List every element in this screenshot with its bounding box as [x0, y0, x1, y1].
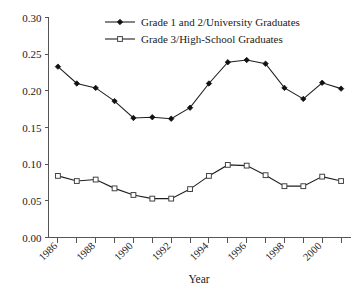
data-point-marker: [117, 19, 122, 24]
chart-canvas: 0.000.050.100.150.200.250.30 19861988199…: [0, 0, 364, 295]
data-point-marker: [169, 196, 174, 201]
data-point-marker: [112, 186, 117, 191]
legend-label: Grade 3/High-School Graduates: [141, 33, 283, 45]
y-axis-tick-label: 0.10: [22, 158, 42, 170]
series-line: [58, 165, 341, 199]
x-axis: 19861988199019921994199619982000: [37, 238, 351, 263]
data-point-marker: [320, 174, 325, 179]
data-point-marker: [225, 163, 230, 168]
data-point-marker: [93, 177, 98, 182]
y-axis-tick-label: 0.30: [22, 12, 42, 24]
x-axis-tick-label: 1996: [225, 240, 248, 263]
data-point-marker: [244, 163, 249, 168]
legend-label: Grade 1 and 2/University Graduates: [141, 16, 300, 28]
data-point-marker: [150, 196, 155, 201]
series-line: [58, 60, 341, 119]
data-point-marker: [244, 57, 249, 62]
y-axis-tick-label: 0.25: [22, 48, 42, 60]
data-point-marker: [56, 174, 61, 179]
data-point-marker: [74, 179, 79, 184]
chart-legend: Grade 1 and 2/University GraduatesGrade …: [105, 16, 300, 45]
data-point-marker: [338, 86, 343, 91]
data-point-marker: [207, 174, 212, 179]
x-axis-tick-label: 1998: [263, 240, 286, 263]
data-point-marker: [339, 179, 344, 184]
series-layer: [55, 57, 344, 201]
data-point-marker: [263, 173, 268, 178]
data-point-marker: [188, 187, 193, 192]
data-point-marker: [301, 184, 306, 189]
x-axis-title: Year: [188, 273, 209, 285]
line-chart: 0.000.050.100.150.200.250.30 19861988199…: [0, 0, 364, 295]
y-axis: 0.000.050.100.150.200.250.30: [22, 12, 48, 244]
x-axis-tick-label: 1988: [74, 240, 97, 263]
data-point-marker: [282, 184, 287, 189]
series-1: [55, 57, 344, 121]
x-axis-tick-label: 1986: [37, 240, 60, 263]
legend-item-2: Grade 3/High-School Graduates: [105, 33, 283, 45]
legend-item-1: Grade 1 and 2/University Graduates: [105, 16, 300, 28]
y-axis-tick-label: 0.20: [22, 85, 42, 97]
x-axis-tick-label: 1992: [150, 240, 173, 263]
y-axis-tick-label: 0.00: [22, 232, 42, 244]
data-point-marker: [118, 37, 123, 42]
x-axis-tick-label: 2000: [301, 240, 324, 263]
y-axis-tick-label: 0.15: [22, 122, 42, 134]
data-point-marker: [168, 116, 173, 121]
data-point-marker: [131, 193, 136, 198]
y-axis-tick-label: 0.05: [22, 195, 42, 207]
x-axis-tick-label: 1994: [188, 240, 211, 263]
series-2: [56, 163, 344, 202]
x-axis-tick-label: 1990: [112, 240, 135, 263]
data-point-marker: [150, 115, 155, 120]
